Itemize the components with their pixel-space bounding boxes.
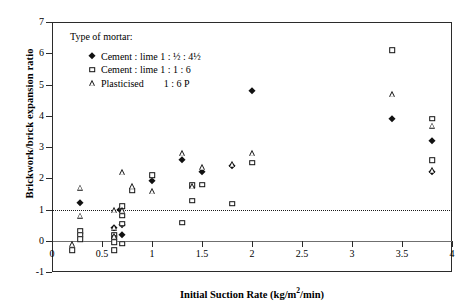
legend-label: Cement : lime 1 : 1 : 6	[101, 63, 191, 77]
x-tick-label: 1	[132, 248, 172, 259]
data-point	[118, 231, 126, 239]
data-point	[229, 161, 235, 167]
data-point	[178, 156, 186, 164]
open-triangle-icon	[86, 77, 98, 89]
y-tick-label: 2	[0, 172, 53, 183]
x-tick-label: 2.5	[282, 248, 322, 259]
data-point	[119, 213, 125, 219]
data-point	[429, 116, 435, 122]
legend-title: Type of mortar:	[70, 30, 201, 44]
y-tick-label: 0	[0, 235, 53, 246]
legend-entry-cement-lime-half: Cement : lime 1 : ½ : 4½	[86, 50, 201, 64]
data-point	[249, 160, 255, 166]
x-tick	[452, 241, 453, 247]
data-point	[389, 47, 395, 53]
data-point	[429, 167, 435, 173]
data-point	[429, 157, 435, 163]
y-tick-label: 1	[0, 204, 53, 215]
data-point	[111, 207, 117, 213]
data-point	[69, 241, 75, 247]
data-point	[199, 182, 205, 188]
y-tick-label: 3	[0, 141, 53, 152]
x-tick	[402, 241, 403, 247]
data-point	[388, 115, 396, 123]
data-point	[149, 172, 155, 178]
x-tick	[52, 241, 53, 247]
data-point	[119, 169, 125, 175]
legend-entry-cement-lime-116: Cement : lime 1 : 1 : 6	[86, 63, 201, 77]
data-point	[189, 198, 195, 204]
x-tick	[252, 241, 253, 247]
data-point	[179, 150, 185, 156]
data-point	[119, 241, 125, 247]
y-tick-label: 5	[0, 79, 53, 90]
x-tick	[102, 241, 103, 247]
data-point	[76, 199, 84, 207]
data-point	[111, 224, 117, 230]
data-point	[111, 247, 117, 253]
legend: Type of mortar: Cement : lime 1 : ½ : 4½…	[70, 30, 201, 90]
data-point	[77, 236, 83, 242]
x-axis-title-tail: /min)	[300, 289, 324, 300]
x-tick	[302, 241, 303, 247]
data-point	[389, 91, 395, 97]
x-axis-title: Initial Suction Rate (kg/m2/min)	[52, 286, 452, 300]
data-point	[111, 233, 117, 239]
legend-label: Plasticised	[101, 77, 144, 91]
x-tick-label: 3	[332, 248, 372, 259]
legend-entry-plasticised: Plasticised 1 : 6 P	[86, 77, 201, 91]
data-point	[129, 183, 135, 189]
x-tick	[152, 241, 153, 247]
x-tick-label: 0	[32, 248, 72, 259]
x-axis-title-main: Initial Suction Rate (kg/m	[180, 289, 296, 300]
data-point	[148, 178, 156, 186]
x-tick-label: 4	[432, 248, 466, 259]
x-tick-label: 2	[232, 248, 272, 259]
data-point	[111, 240, 117, 246]
y-tick-label: -1	[0, 266, 53, 277]
x-tick-label: 1.5	[182, 248, 222, 259]
data-point	[149, 188, 155, 194]
data-point	[229, 201, 235, 207]
legend-label: Cement : lime 1 : ½ : 4½	[101, 50, 201, 64]
data-point	[77, 212, 83, 218]
x-tick	[352, 241, 353, 247]
data-point	[428, 137, 436, 145]
data-point	[429, 122, 435, 128]
data-point	[119, 221, 125, 227]
data-point	[129, 188, 135, 194]
x-tick-label: 3.5	[382, 248, 422, 259]
data-point	[77, 184, 83, 190]
data-point	[199, 164, 205, 170]
legend-label-ratio: 1 : 6 P	[164, 77, 190, 91]
data-point	[248, 87, 256, 95]
data-point	[249, 150, 255, 156]
y-tick-label: 4	[0, 110, 53, 121]
x-tick	[202, 241, 203, 247]
data-point	[189, 183, 195, 189]
data-point	[69, 247, 75, 253]
open-square-icon	[86, 64, 98, 76]
filled-diamond-icon	[86, 50, 98, 62]
y-tick-label: 7	[0, 16, 53, 27]
chart-figure: Brickwork/brick expansion ratio -1012345…	[0, 0, 466, 305]
y-tick-label: 6	[0, 47, 53, 58]
data-point	[179, 220, 185, 226]
data-point	[119, 207, 125, 213]
